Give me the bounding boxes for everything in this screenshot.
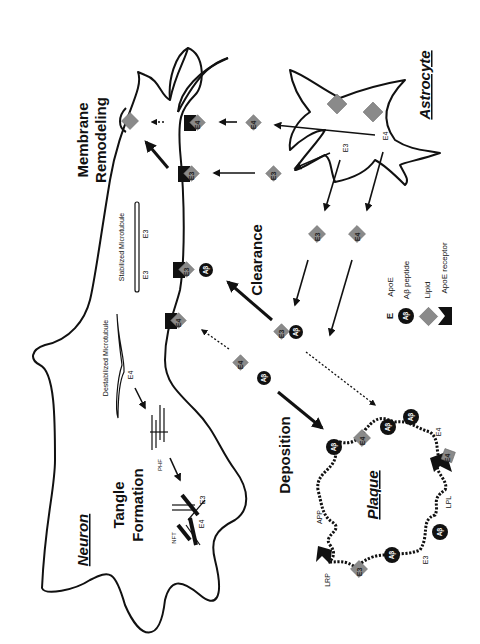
svg-text:Membrane: Membrane [74, 102, 91, 177]
plaque-ab-2: Aβ [380, 419, 396, 435]
svg-text:Aβ peptide: Aβ peptide [402, 260, 411, 299]
nft-label: NFT [171, 532, 177, 544]
ab-peptide-free: Aβ [257, 371, 271, 385]
tangle-formation-label: Tangle Formation [110, 468, 146, 541]
svg-text:E4: E4 [354, 233, 361, 242]
plaque-label: Plaque [364, 470, 381, 519]
svg-text:ApoE receptor: ApoE receptor [440, 242, 449, 293]
svg-text:Aβ: Aβ [436, 528, 444, 537]
svg-text:Aβ: Aβ [330, 443, 338, 452]
nft-e4-label: E4 [198, 520, 205, 529]
receptor-complex-e4-mid: E4 [165, 313, 186, 329]
nft-e3-label: E3 [199, 496, 206, 505]
svg-text:E3: E3 [183, 268, 190, 277]
arrow-phf-to-nft [170, 458, 180, 480]
arrow-astro-e4-out [275, 125, 375, 135]
plaque-ab-5: Aβ [384, 547, 400, 563]
plaque-lpl-receptor: E4 [430, 449, 455, 472]
svg-text:E4: E4 [359, 437, 366, 446]
svg-text:E4: E4 [175, 319, 182, 328]
plaque-e4-lipid: E4 [354, 430, 371, 447]
arrow-e4-down [330, 260, 352, 335]
arrow-astro-e3-out [295, 153, 330, 168]
apoe-pathway-diagram: Neuron Membrane Remodeling E4 E3 E4 E3 A… [0, 0, 480, 644]
svg-text:E3: E3 [142, 230, 149, 239]
svg-text:Aβ: Aβ [402, 312, 410, 321]
svg-text:Lipid: Lipid [423, 282, 432, 299]
plaque-e3-lipid: E3 [351, 561, 368, 578]
plaque-app-label: APP [316, 510, 323, 524]
plaque-lrp-receptor [316, 546, 332, 564]
arrow-dotted-e4 [202, 330, 229, 349]
svg-text:Aβ: Aβ [384, 423, 392, 432]
plaque-e3-text: E3 [422, 556, 429, 565]
neuron-label: Neuron [74, 514, 91, 567]
stabilized-microtubule: Stabilized Microtubule E3 E3 [118, 202, 149, 292]
receptor-complex-e3-ab: E3 Aβ [173, 262, 213, 278]
svg-text:Aβ: Aβ [292, 328, 300, 337]
svg-text:Remodeling: Remodeling [92, 97, 109, 183]
complex-e4-free-low: E4 [233, 355, 249, 371]
plaque-lpl-label: LPL [445, 496, 452, 509]
svg-text:E4: E4 [444, 454, 451, 463]
svg-text:Formation: Formation [129, 468, 146, 541]
plaque-ab-1: Aβ [326, 439, 342, 455]
arrow-bold-remodel [146, 142, 168, 168]
svg-text:E3: E3 [270, 172, 277, 181]
legend-item-apoe-receptor: ApoE receptor [438, 242, 452, 325]
plaque-ab-4: Aβ [432, 524, 448, 540]
legend-item-apoe: E ApoE [385, 277, 395, 319]
complex-e3-mid: E3 [309, 226, 326, 243]
arrow-dotted-to-plaque [306, 352, 375, 405]
svg-text:ApoE: ApoE [386, 277, 395, 297]
svg-text:Destabilized Microtubule: Destabilized Microtubule [102, 320, 109, 396]
complex-e4-free-top: E4 [246, 115, 262, 131]
receptor-complex-e4-top: E4 [184, 115, 205, 131]
astrocyte-label: Astrocyte [416, 50, 433, 120]
deposition-label: Deposition [276, 416, 293, 494]
phf-label: PHF [157, 459, 163, 471]
svg-text:E4: E4 [250, 121, 257, 130]
svg-text:E3: E3 [356, 568, 363, 577]
neuron-cell [33, 48, 246, 633]
destabilized-microtubule: Destabilized Microtubule E4 [102, 314, 134, 418]
svg-text:E4: E4 [127, 371, 134, 380]
receptor-complex-e3-top: E3 [178, 166, 199, 182]
legend-item-lipid: Lipid [419, 282, 437, 326]
svg-text:Tangle: Tangle [110, 481, 127, 528]
svg-text:E: E [385, 313, 395, 319]
svg-text:Aβ: Aβ [407, 413, 415, 422]
svg-text:Aβ: Aβ [260, 374, 268, 383]
svg-text:Stabilized Microtubule: Stabilized Microtubule [118, 213, 125, 282]
svg-text:E3: E3 [188, 172, 195, 181]
lipid-icon [363, 102, 383, 122]
phf-icon [150, 405, 168, 450]
arrow-astro-e3-down [325, 160, 340, 210]
plaque-e4-text: E4 [435, 428, 442, 437]
membrane-remodeling-label: Membrane Remodeling [74, 97, 109, 183]
complex-e3-free-top: E3 [266, 166, 282, 182]
complex-e4-mid: E4 [349, 226, 366, 243]
astrocyte-e3-label: E3 [342, 144, 349, 153]
svg-text:E3: E3 [314, 233, 321, 242]
astrocyte-e4-label: E4 [382, 132, 389, 141]
svg-text:Aβ: Aβ [202, 266, 210, 275]
arrow-e3-to-ab [295, 260, 308, 305]
arrow-e4-to-phf [135, 388, 145, 408]
plaque-ab-3: Aβ [403, 409, 419, 425]
svg-text:E3: E3 [278, 330, 285, 339]
legend-item-ab-peptide: Aβ Aβ peptide [398, 260, 414, 324]
complex-e3-ab-free: E3 Aβ [274, 324, 303, 340]
svg-text:E4: E4 [237, 361, 244, 370]
svg-text:E3: E3 [142, 271, 149, 280]
legend: E ApoE Aβ Aβ peptide Lipid ApoE receptor [385, 242, 452, 326]
plaque-lrp-label: LRP [324, 573, 331, 587]
svg-text:Aβ: Aβ [388, 551, 396, 560]
clearance-label: Clearance [248, 224, 265, 296]
svg-text:E4: E4 [194, 121, 201, 130]
